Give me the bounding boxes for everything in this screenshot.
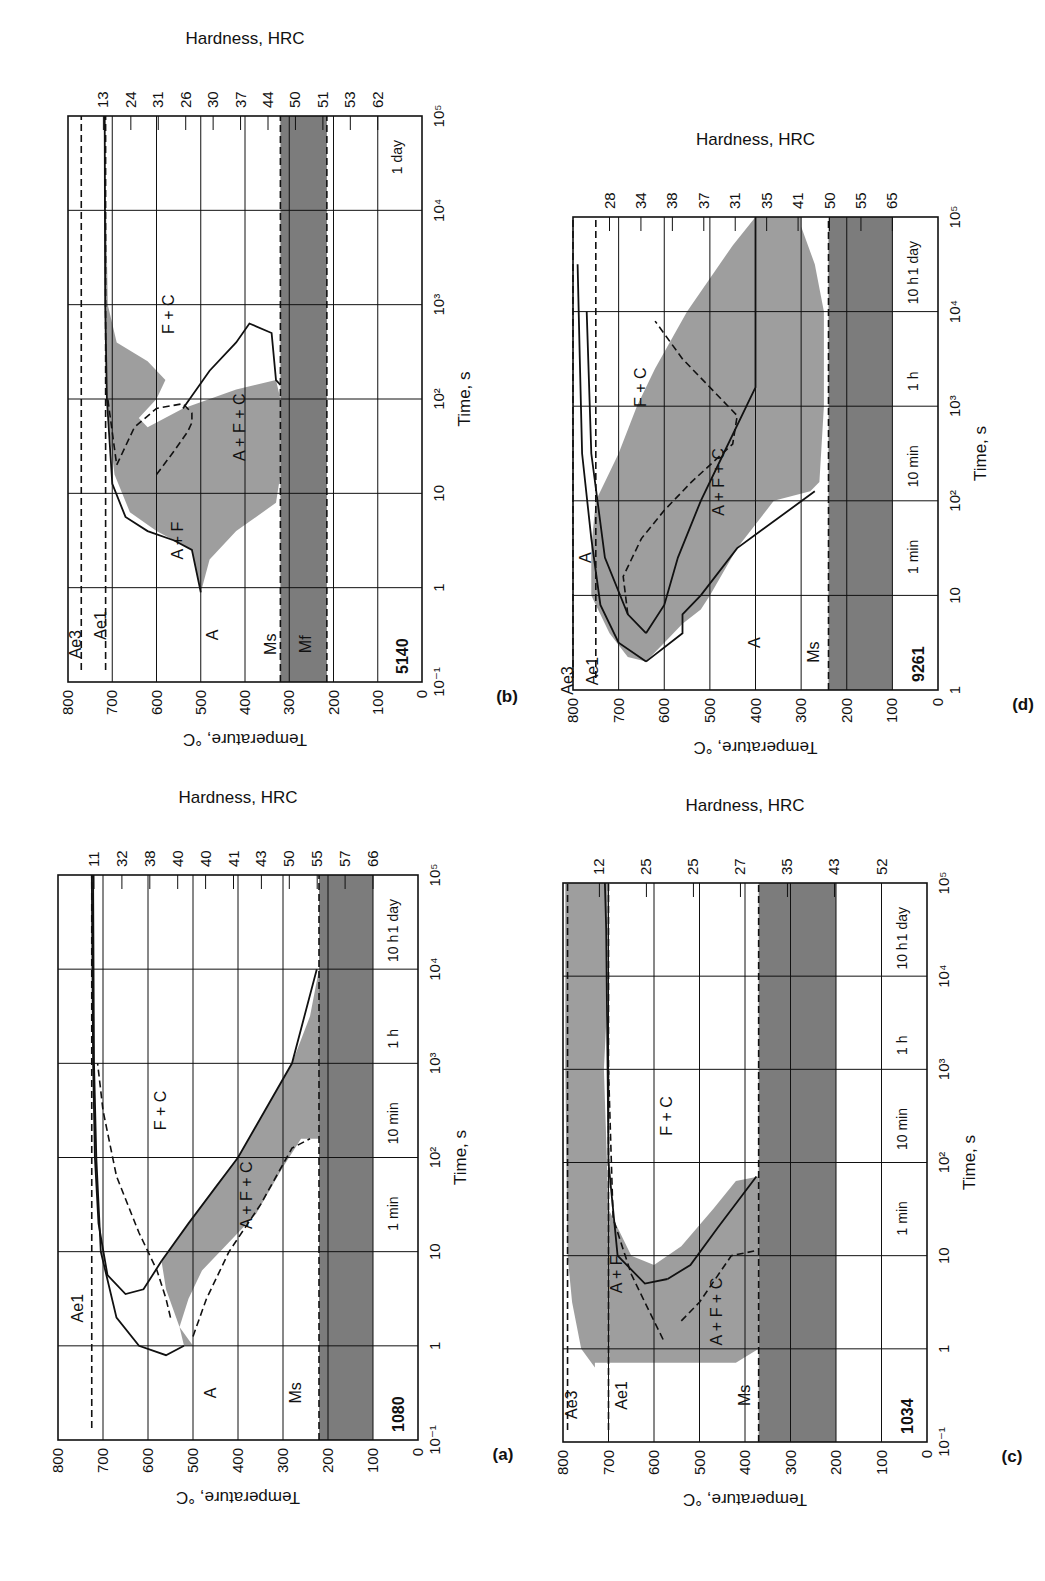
temp-tick-label: 200: [325, 690, 342, 715]
time-tick-label: 10⁵: [430, 105, 447, 128]
hardness-label: 25: [637, 858, 654, 875]
temp-tick-label: 100: [873, 1450, 890, 1475]
hardness-label: 62: [369, 91, 386, 108]
hardness-label: 12: [590, 858, 607, 875]
region-label: Ms: [287, 1382, 304, 1403]
hardness-label: 44: [259, 91, 276, 108]
hardness-label: 26: [177, 91, 194, 108]
region-label: F + C: [658, 1096, 675, 1136]
hardness-label: 43: [252, 850, 269, 867]
temp-tick-label: 800: [49, 1448, 66, 1473]
temp-tick-label: 500: [184, 1448, 201, 1473]
time-tick-label: 10³: [426, 1052, 443, 1074]
time-mark-label: 1 h: [905, 372, 921, 391]
time-tick-label: 10²: [430, 388, 447, 410]
time-mark-label: 10 min: [905, 445, 921, 487]
panel-d: 11010²10³10⁴10⁵0100200300400500600700800…: [559, 130, 1034, 757]
time-tick-label: 10⁵: [946, 206, 963, 229]
time-mark-label: 10 h: [385, 935, 401, 962]
temp-tick-label: 500: [701, 698, 718, 723]
time-tick-label: 1: [426, 1342, 443, 1350]
time-tick-label: 1: [946, 686, 963, 694]
time-tick-label: 10²: [946, 490, 963, 512]
region-label: Ae3: [67, 630, 84, 659]
hardness-label: 57: [336, 850, 353, 867]
region-label: A + F: [608, 1255, 625, 1293]
temp-tick-label: 300: [782, 1450, 799, 1475]
panel-caption: (c): [1002, 1447, 1023, 1466]
temp-tick-label: 400: [236, 690, 253, 715]
time-tick-label: 10⁴: [426, 958, 443, 981]
hardness-label: 38: [663, 192, 680, 209]
hardness-label: 50: [821, 192, 838, 209]
region-label: Ms: [736, 1385, 753, 1406]
temp-tick-label: 200: [319, 1448, 336, 1473]
region-label: A + F + C: [710, 448, 727, 516]
region-label: F + C: [632, 367, 649, 407]
time-mark-label: 1 day: [894, 907, 910, 941]
region-label: A + F: [169, 521, 186, 559]
time-tick-label: 10: [935, 1247, 952, 1264]
region-label: A + F + C: [231, 394, 248, 462]
time-tick-label: 10: [426, 1243, 443, 1260]
time-mark-label: 10 h: [905, 277, 921, 304]
time-mark-label: 10 min: [385, 1102, 401, 1144]
time-tick-label: 10⁵: [935, 872, 952, 895]
hardness-label: 31: [149, 91, 166, 108]
region-label: Ms: [805, 641, 822, 662]
hardness-axis-title: Hardness, HRC: [685, 796, 804, 815]
region-label: Ae1: [69, 1294, 86, 1323]
steel-id: 5140: [394, 638, 411, 674]
time-mark-label: 1 day: [385, 899, 401, 933]
hardness-axis-title: Hardness, HRC: [696, 130, 815, 149]
time-tick-label: 10⁻¹: [426, 1425, 443, 1455]
region-label: A: [746, 637, 763, 648]
hardness-label: 37: [232, 91, 249, 108]
hardness-label: 55: [308, 850, 325, 867]
time-tick-label: 10²: [426, 1147, 443, 1169]
temp-tick-label: 200: [838, 698, 855, 723]
time-mark-label: 1 day: [389, 140, 405, 174]
temp-tick-label: 800: [554, 1450, 571, 1475]
temp-tick-label: 300: [792, 698, 809, 723]
hardness-label: 66: [364, 850, 381, 867]
hardness-label: 53: [341, 91, 358, 108]
temp-tick-label: 400: [747, 698, 764, 723]
hardness-label: 43: [825, 858, 842, 875]
time-mark-label: 1 h: [385, 1029, 401, 1048]
hardness-label: 41: [225, 850, 242, 867]
temp-tick-label: 600: [139, 1448, 156, 1473]
hardness-label: 41: [789, 192, 806, 209]
time-tick-label: 10: [430, 485, 447, 502]
time-mark-label: 1 min: [385, 1196, 401, 1230]
region-label: Ae1: [92, 611, 109, 640]
time-tick-label: 10³: [935, 1058, 952, 1080]
hardness-axis-title: Hardness, HRC: [178, 788, 297, 807]
time-mark-label: 10 min: [894, 1108, 910, 1150]
hardness-label: 40: [197, 850, 214, 867]
ttt-figure: 10⁻¹11010²10³10⁴10⁵010020030040050060070…: [0, 0, 1045, 1581]
hardness-label: 28: [601, 192, 618, 209]
temp-axis-title: Temperature, °C: [176, 1488, 300, 1507]
hardness-label: 52: [873, 858, 890, 875]
time-tick-label: 1: [935, 1345, 952, 1353]
hardness-label: 50: [286, 91, 303, 108]
time-axis-title: Time, s: [971, 426, 990, 481]
temp-tick-label: 500: [192, 690, 209, 715]
temp-axis-title: Temperature, °C: [683, 1490, 807, 1509]
time-mark-label: 1 min: [894, 1201, 910, 1235]
steel-id: 1034: [899, 1398, 916, 1434]
temp-tick-label: 800: [564, 698, 581, 723]
region-label: A + F + C: [708, 1278, 725, 1346]
temp-tick-label: 400: [229, 1448, 246, 1473]
region-label: A + F + C: [238, 1161, 255, 1229]
time-tick-label: 10³: [430, 294, 447, 316]
region-label: Ae3: [559, 666, 576, 695]
time-tick-label: 10³: [946, 395, 963, 417]
hardness-label: 34: [632, 192, 649, 209]
hardness-label: 27: [731, 858, 748, 875]
temp-tick-label: 100: [364, 1448, 381, 1473]
panel-a: 10⁻¹11010²10³10⁴10⁵010020030040050060070…: [49, 788, 513, 1507]
region-label: Mf: [297, 635, 314, 653]
time-tick-label: 10: [946, 587, 963, 604]
